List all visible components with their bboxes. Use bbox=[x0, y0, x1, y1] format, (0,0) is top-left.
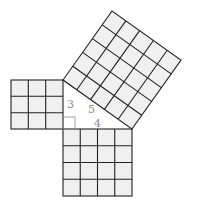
label-leg-4: 4 bbox=[94, 117, 101, 130]
label-leg-3: 3 bbox=[67, 98, 74, 111]
square-side-3 bbox=[11, 80, 63, 129]
label-hypotenuse-5: 5 bbox=[88, 103, 95, 116]
square-side-5 bbox=[63, 11, 181, 129]
square-side-4 bbox=[63, 129, 132, 196]
pythagorean-diagram: 3 5 4 bbox=[0, 0, 197, 211]
right-angle-marker bbox=[63, 117, 75, 129]
